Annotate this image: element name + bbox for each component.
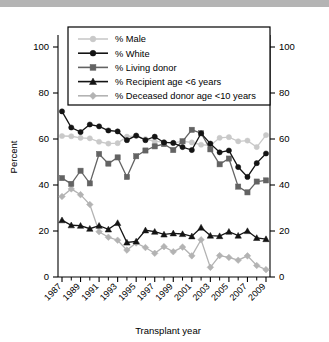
data-point: [87, 136, 92, 141]
data-point: [189, 127, 194, 132]
data-point: [124, 138, 129, 143]
legend-swatch-marker: [90, 50, 96, 56]
data-point: [115, 141, 120, 146]
chart-figure: 020406080100 020406080100 19871989199119…: [0, 7, 329, 342]
legend-label: % White: [115, 49, 150, 59]
x-tick-label: 2003: [191, 281, 212, 302]
data-point: [78, 168, 83, 173]
data-point: [59, 176, 64, 181]
data-point: [59, 217, 65, 223]
data-point: [59, 133, 64, 138]
data-point: [69, 134, 74, 139]
data-point: [254, 179, 259, 184]
data-point: [263, 151, 268, 156]
y-tick-label: 40: [38, 179, 49, 190]
data-point: [171, 140, 176, 145]
data-point: [114, 220, 120, 226]
legend-label: % Recipient age <6 years: [115, 77, 222, 87]
data-point: [115, 129, 120, 134]
data-point: [170, 248, 177, 255]
data-point: [69, 125, 74, 130]
data-point: [59, 109, 64, 114]
data-point: [198, 236, 205, 243]
data-point: [245, 190, 250, 195]
y-tick-label: 20: [38, 225, 49, 236]
data-point: [180, 139, 185, 144]
data-point: [96, 124, 101, 129]
data-point: [69, 181, 74, 186]
data-point: [124, 174, 129, 179]
data-point: [106, 141, 111, 146]
data-point: [143, 148, 148, 153]
y-tick-label: 60: [38, 133, 49, 144]
x-tick-label: 1989: [61, 281, 82, 302]
data-point: [226, 148, 231, 153]
data-point: [152, 134, 157, 139]
data-point: [106, 161, 111, 166]
legend-swatch-marker: [90, 36, 96, 42]
data-point: [189, 140, 194, 145]
x-tick-label: 2007: [228, 281, 249, 302]
y-axis-ticks-right: 020406080100: [270, 41, 295, 282]
series-white: [59, 109, 268, 180]
y-axis-title: Percent: [8, 140, 19, 173]
data-point: [208, 141, 213, 146]
data-point: [226, 156, 231, 161]
data-point: [236, 139, 241, 144]
data-point: [236, 184, 241, 189]
data-point: [235, 257, 242, 264]
x-axis-ticks: 1987198919911993199519971999200120032005…: [42, 277, 267, 303]
data-point: [226, 254, 233, 261]
legend-label: % Male: [115, 34, 146, 44]
line-chart-svg: 020406080100 020406080100 19871989199119…: [0, 7, 329, 342]
data-point: [134, 133, 139, 138]
data-point: [106, 128, 111, 133]
x-tick-label: 2001: [172, 281, 193, 302]
data-point: [208, 147, 213, 152]
data-point: [198, 142, 203, 147]
y-tick-label-right: 40: [279, 179, 290, 190]
data-point: [78, 135, 83, 140]
window-top-bar: [0, 0, 329, 7]
data-point: [152, 144, 157, 149]
data-point: [217, 162, 222, 167]
legend-swatch-marker: [90, 65, 96, 71]
data-point: [78, 130, 83, 135]
data-point: [245, 138, 250, 143]
data-point: [115, 155, 120, 160]
data-point: [217, 135, 222, 140]
y-tick-label-right: 60: [279, 133, 290, 144]
series-line: [62, 189, 266, 270]
data-point: [143, 138, 148, 143]
chart-series-group: [59, 109, 270, 273]
y-tick-label-right: 80: [279, 87, 290, 98]
y-axis-ticks-left: 020406080100: [33, 41, 58, 282]
y-tick-label-right: 0: [279, 271, 284, 282]
data-point: [134, 154, 139, 159]
y-tick-label: 80: [38, 87, 49, 98]
x-tick-label: 1999: [153, 281, 174, 302]
data-point: [217, 150, 222, 155]
x-axis-title: Transplant year: [135, 325, 201, 336]
data-point: [254, 144, 259, 149]
data-point: [236, 164, 241, 169]
x-tick-label: 1993: [98, 281, 119, 302]
y-tick-label-right: 20: [279, 225, 290, 236]
data-point: [198, 224, 204, 230]
data-point: [189, 147, 194, 152]
x-tick-label: 1995: [116, 281, 137, 302]
x-tick-label: 1991: [79, 281, 100, 302]
data-point: [244, 228, 250, 234]
legend-label: % Deceased donor age <10 years: [115, 91, 256, 101]
data-point: [180, 144, 185, 149]
data-point: [96, 228, 103, 235]
data-point: [105, 234, 112, 241]
x-tick-label: 2005: [209, 281, 230, 302]
data-point: [161, 140, 166, 145]
x-tick-label: 1987: [42, 281, 63, 302]
y-tick-label: 0: [44, 271, 49, 282]
y-tick-label: 100: [33, 41, 49, 52]
legend-label: % Living donor: [115, 63, 177, 73]
x-tick-label: 1997: [135, 281, 156, 302]
x-tick-label: 2009: [246, 281, 267, 302]
